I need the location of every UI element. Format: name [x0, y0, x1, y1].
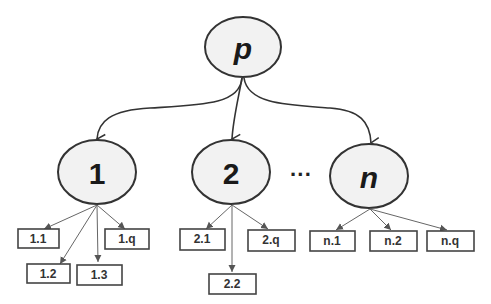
leaf-box-1-1: 1.1: [18, 229, 59, 248]
leaf-box-2-q: 2.q: [248, 230, 295, 251]
leaf-box-1-q: 1.q: [105, 229, 149, 249]
leaf-label: n.q: [441, 234, 459, 248]
leaf-box-2-1: 2.1: [180, 229, 225, 250]
leaf-box-2-2: 2.2: [209, 274, 256, 294]
edge-p-to-n: [244, 78, 371, 143]
leaf-label: 1.3: [91, 268, 108, 282]
leaf-box-1-2: 1.2: [27, 264, 70, 283]
root-label: p: [233, 32, 252, 65]
leaf-label: n.1: [323, 234, 341, 248]
leaf-label: 1.2: [40, 267, 57, 281]
child-node-2: 2: [192, 140, 270, 204]
leaf-label: 2.q: [262, 233, 279, 247]
leaf-box-n-2: n.2: [370, 231, 417, 251]
leaf-label: 2.2: [224, 277, 241, 291]
child-1-label: 1: [89, 157, 106, 190]
leaf-box-1-3: 1.3: [77, 265, 122, 285]
leaf-label: 1.q: [118, 232, 135, 246]
child-node-n: n: [330, 144, 408, 208]
edge-p-to-1: [97, 78, 242, 139]
leaf-label: 2.1: [194, 232, 211, 246]
child-n-label: n: [360, 161, 378, 194]
root-node-p: p: [205, 17, 281, 77]
ellipsis: ···: [290, 162, 312, 187]
leaf-edges-n: [336, 209, 447, 230]
leaf-label: 1.1: [30, 232, 47, 246]
leaf-box-n-q: n.q: [427, 231, 474, 251]
leaf-label: n.2: [384, 234, 402, 248]
leaf-box-n-1: n.1: [310, 231, 355, 251]
edge-p-to-2: [232, 78, 242, 139]
child-2-label: 2: [223, 157, 240, 190]
root-edges: [97, 78, 371, 143]
tree-diagram: p 1 2 ··· n 1.1 1.2: [0, 0, 491, 304]
child-node-1: 1: [58, 140, 136, 204]
